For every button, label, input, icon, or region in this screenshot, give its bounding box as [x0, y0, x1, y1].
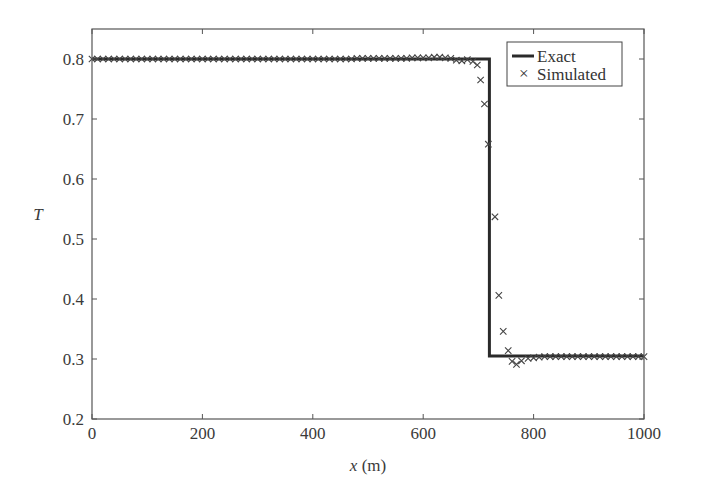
simulated-marker: [477, 77, 483, 83]
plot-frame: [92, 29, 644, 419]
simulated-marker: [505, 347, 511, 353]
x-tick-label: 800: [521, 424, 547, 443]
y-tick-label: 0.3: [63, 350, 84, 369]
legend-exact-label: Exact: [537, 47, 576, 66]
simulated-marker: [492, 214, 498, 220]
x-tick-label: 400: [300, 424, 326, 443]
simulated-marker: [474, 62, 480, 68]
x-axis-label-unit: (m): [357, 456, 386, 475]
legend-simulated-swatch: ×: [519, 64, 529, 83]
x-tick-label: 1000: [627, 424, 661, 443]
x-axis: 02004006008001000: [88, 29, 661, 443]
x-tick-label: 600: [410, 424, 436, 443]
x-tick-label: 200: [190, 424, 216, 443]
simulated-marker: [513, 361, 519, 367]
x-tick-label: 0: [88, 424, 97, 443]
y-tick-label: 0.7: [63, 110, 85, 129]
simulated-marker: [496, 292, 502, 298]
y-tick-label: 0.5: [63, 230, 84, 249]
legend: Exact × Simulated: [507, 42, 622, 86]
y-tick-label: 0.8: [63, 50, 84, 69]
y-axis-label: T: [33, 205, 44, 224]
simulated-marker: [481, 101, 487, 107]
legend-simulated-label: Simulated: [537, 65, 606, 84]
series-simulated-markers: [89, 54, 647, 368]
y-axis: 0.20.30.40.50.60.70.8: [63, 50, 644, 429]
plot-area: [89, 54, 647, 368]
chart: 0.20.30.40.50.60.70.8 02004006008001000 …: [0, 0, 702, 498]
simulated-marker: [509, 358, 515, 364]
y-tick-label: 0.2: [63, 410, 84, 429]
x-axis-label: x (m): [349, 456, 386, 475]
simulated-marker: [500, 328, 506, 334]
y-tick-label: 0.6: [63, 170, 84, 189]
series-exact-line: [92, 59, 644, 356]
simulated-marker: [518, 358, 524, 364]
y-tick-label: 0.4: [63, 290, 85, 309]
